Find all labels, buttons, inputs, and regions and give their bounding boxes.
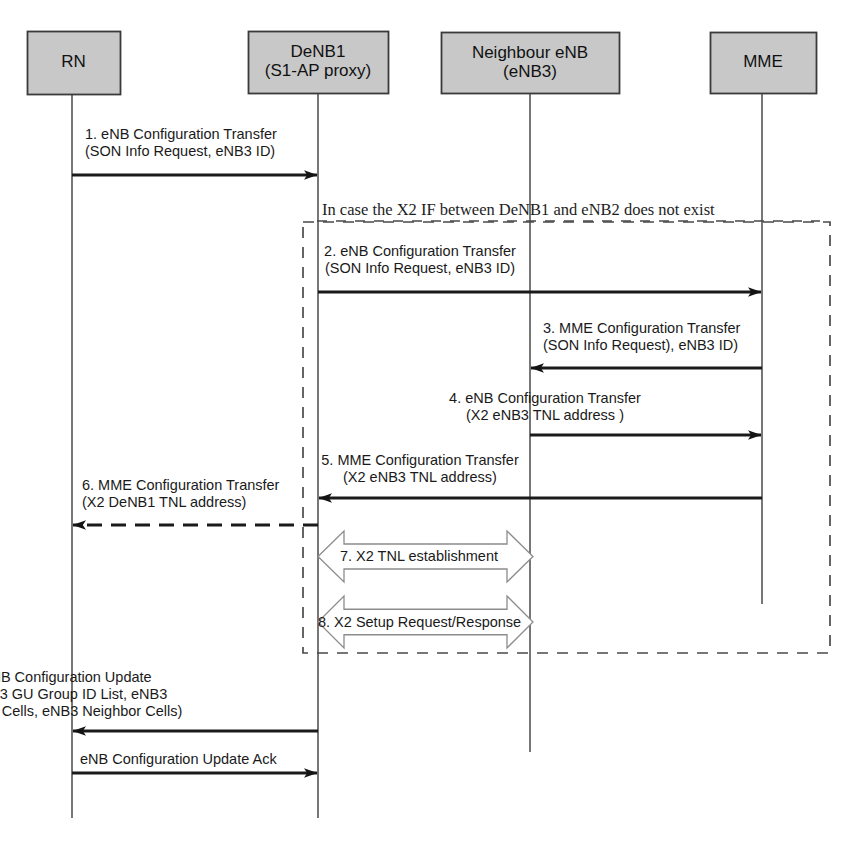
message-label-line: 3. MME Configuration Transfer bbox=[543, 320, 740, 337]
message-label-m6: 6. MME Configuration Transfer(X2 DeNB1 T… bbox=[82, 477, 279, 511]
alt-frame-layer bbox=[303, 221, 830, 653]
message-label-line: 2. eNB Configuration Transfer bbox=[324, 243, 516, 260]
message-label-line: Served Cells, eNB3 Neighbor Cells) bbox=[0, 703, 182, 720]
actor-box-denb1[interactable] bbox=[249, 32, 389, 94]
message-label-m2: 2. eNB Configuration Transfer(SON Info R… bbox=[324, 243, 516, 277]
message-label-line: (X2 eNB3 TNL address) bbox=[321, 469, 518, 486]
message-label-line: (X2 DeNB1 TNL address) bbox=[82, 494, 279, 511]
message-label-line: (eNB3 GU Group ID List, eNB3 bbox=[0, 686, 182, 703]
alt-frame-label: In case the X2 IF between DeNB1 and eNB2… bbox=[322, 200, 715, 220]
message-label-line: eNB Configuration Update Ack bbox=[80, 751, 277, 768]
sequence-diagram-canvas: RNDeNB1(S1-AP proxy)Neighbour eNB(eNB3)M… bbox=[0, 0, 844, 854]
message-label-line: 1. eNB Configuration Transfer bbox=[85, 126, 277, 143]
bidirectional-label-b7: 7. X2 TNL establishment bbox=[340, 548, 498, 564]
message-label-line: 6. MME Configuration Transfer bbox=[82, 477, 279, 494]
actor-box-rn[interactable] bbox=[28, 32, 121, 95]
message-label-line: (SON Info Request, eNB3 ID) bbox=[85, 143, 277, 160]
message-label-line: 5. MME Configuration Transfer bbox=[321, 452, 518, 469]
actor-boxes-layer bbox=[28, 32, 817, 95]
message-label-line: eNB Configuration Update bbox=[0, 669, 182, 686]
actor-box-mme[interactable] bbox=[711, 33, 817, 94]
actor-box-enb3[interactable] bbox=[442, 33, 620, 94]
message-label-m3: 3. MME Configuration Transfer(SON Info R… bbox=[543, 320, 740, 354]
alt-frame-border bbox=[303, 222, 830, 653]
message-label-m9: eNB Configuration Update(eNB3 GU Group I… bbox=[0, 669, 182, 720]
message-label-m4: 4. eNB Configuration Transfer(X2 eNB3 TN… bbox=[449, 390, 641, 424]
message-label-m1: 1. eNB Configuration Transfer(SON Info R… bbox=[85, 126, 277, 160]
message-label-line: (X2 eNB3 TNL address ) bbox=[449, 407, 641, 424]
message-label-line: 4. eNB Configuration Transfer bbox=[449, 390, 641, 407]
message-label-line: (SON Info Request), eNB3 ID) bbox=[543, 337, 740, 354]
bidirectional-label-b8: 8. X2 Setup Request/Response bbox=[318, 614, 521, 630]
message-label-m5: 5. MME Configuration Transfer(X2 eNB3 TN… bbox=[321, 452, 518, 486]
message-label-line: (SON Info Request, eNB3 ID) bbox=[324, 260, 516, 277]
message-label-m10: eNB Configuration Update Ack bbox=[80, 751, 277, 768]
